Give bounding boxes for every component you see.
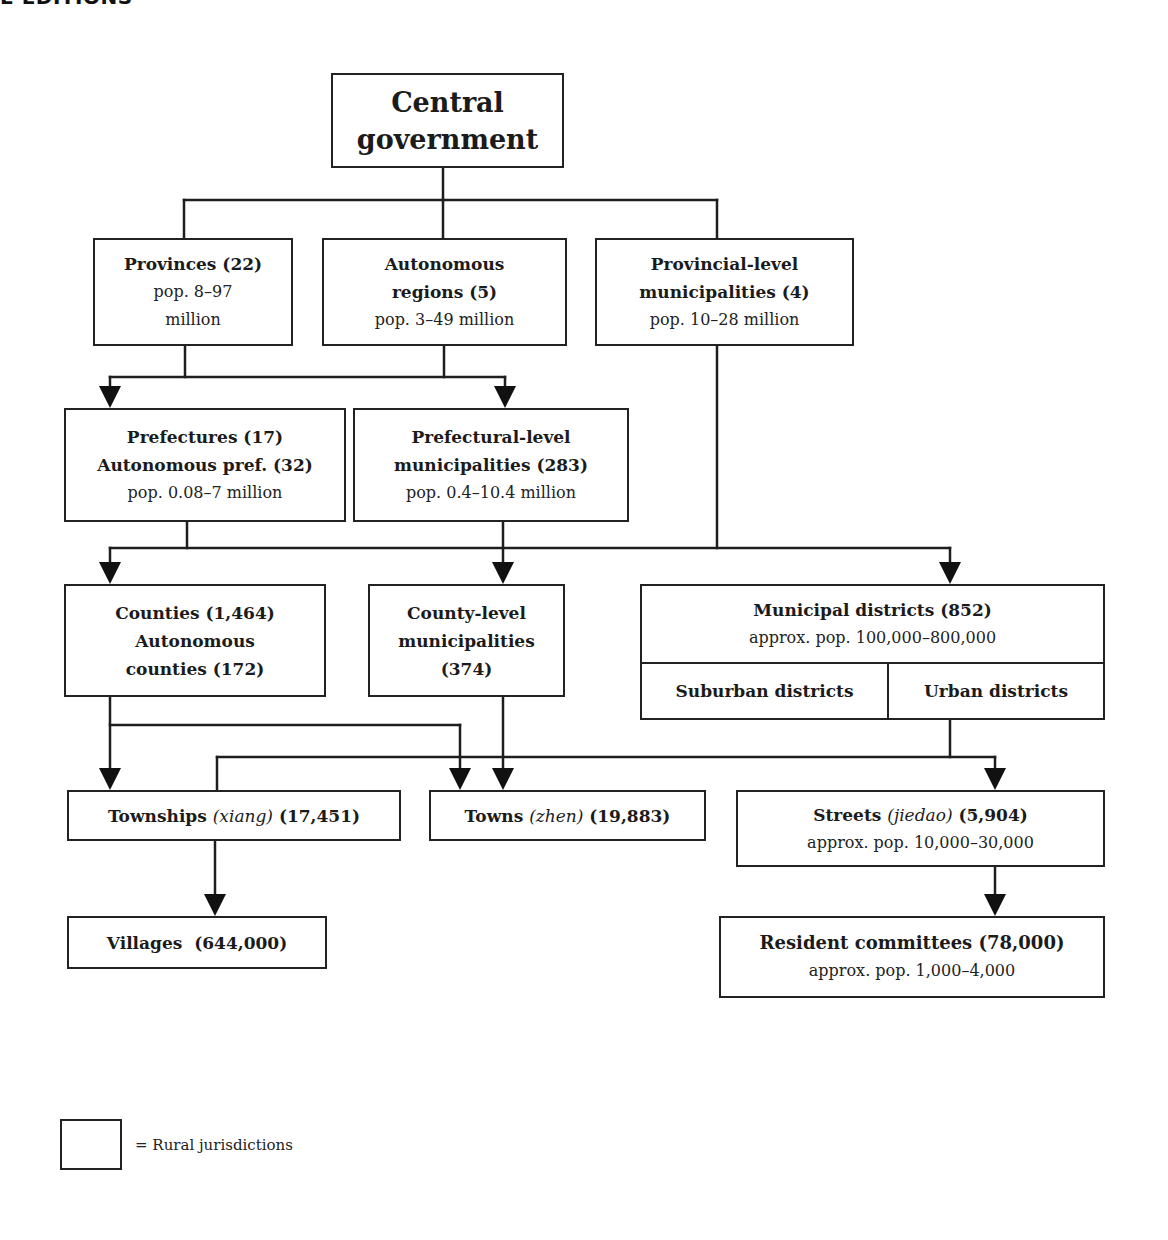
node-population: pop. 0.08–7 million [128, 479, 283, 507]
node-title-line: Autonomous pref. (32) [97, 451, 313, 479]
node-title-line: Prefectural-level [411, 423, 570, 451]
node-central-government: Central government [331, 73, 564, 168]
node-count: (644,000) [194, 933, 287, 953]
node-streets: Streets (jiedao) (5,904) approx. pop. 10… [736, 790, 1105, 867]
node-title-line: Autonomous [135, 627, 255, 655]
node-count: (5,904) [958, 805, 1027, 825]
node-counties: Counties (1,464) Autonomous counties (17… [64, 584, 326, 697]
node-title-line: (374) [441, 655, 493, 683]
node-title: Provinces (22) [124, 250, 262, 278]
node-autonomous-regions: Autonomous regions (5) pop. 3–49 million [322, 238, 567, 346]
node-villages: Villages (644,000) [67, 916, 327, 969]
node-title: Villages (644,000) [107, 929, 287, 957]
node-count: (19,883) [589, 806, 670, 826]
node-name: Villages [107, 933, 183, 953]
node-population: pop. 0.4–10.4 million [406, 479, 576, 507]
node-county-level-municipalities: County-level municipalities (374) [368, 584, 565, 697]
node-resident-committees: Resident committees (78,000) approx. pop… [719, 916, 1105, 998]
node-townships: Townships (xiang) (17,451) [67, 790, 401, 841]
node-title-line: government [357, 121, 538, 158]
node-population: pop. 10–28 million [650, 306, 800, 334]
node-provinces: Provinces (22) pop. 8–97 million [93, 238, 293, 346]
urban-districts-label: Urban districts [924, 677, 1068, 705]
node-population: approx. pop. 1,000–4,000 [809, 957, 1015, 985]
suburban-districts-cell: Suburban districts [642, 664, 889, 718]
node-municipal-districts: Municipal districts (852) approx. pop. 1… [640, 584, 1105, 720]
node-title-line: municipalities (283) [394, 451, 588, 479]
suburban-districts-label: Suburban districts [676, 677, 854, 705]
node-name: Townships [108, 806, 207, 826]
node-name: Streets [813, 805, 881, 825]
node-title-line: Counties (1,464) [115, 599, 275, 627]
node-population: approx. pop. 10,000–30,000 [807, 829, 1034, 857]
node-population: pop. 8–97 [154, 278, 233, 306]
node-count: (17,451) [279, 806, 360, 826]
node-title: Towns (zhen) (19,883) [465, 802, 671, 830]
node-title-line: regions (5) [392, 278, 497, 306]
urban-districts-cell: Urban districts [889, 664, 1103, 718]
node-local-term: (zhen) [529, 806, 583, 826]
node-population: pop. 3–49 million [375, 306, 515, 334]
legend-label: = Rural jurisdictions [135, 1134, 293, 1156]
node-title-line: Provincial-level [651, 250, 799, 278]
node-prefectural-level-municipalities: Prefectural-level municipalities (283) p… [353, 408, 629, 522]
legend-swatch [60, 1119, 122, 1170]
node-title: Resident committees (78,000) [760, 929, 1065, 957]
node-title: Municipal districts (852) [753, 596, 992, 624]
node-title-line: counties (172) [126, 655, 265, 683]
node-title-line: Autonomous [385, 250, 505, 278]
node-title: Townships (xiang) (17,451) [108, 802, 360, 830]
node-title-line: County-level [407, 599, 526, 627]
node-towns: Towns (zhen) (19,883) [429, 790, 706, 841]
node-prefectures: Prefectures (17) Autonomous pref. (32) p… [64, 408, 346, 522]
node-title: Streets (jiedao) (5,904) [813, 801, 1028, 829]
node-provincial-level-municipalities: Provincial-level municipalities (4) pop.… [595, 238, 854, 346]
node-name: Towns [465, 806, 524, 826]
node-title-line: municipalities (4) [639, 278, 809, 306]
node-title-line: Prefectures (17) [127, 423, 283, 451]
node-title-line: municipalities [398, 627, 535, 655]
node-population: million [165, 306, 221, 334]
node-local-term: (jiedao) [887, 805, 952, 825]
node-title-line: Central [391, 84, 504, 121]
node-local-term: (xiang) [213, 806, 273, 826]
node-population: approx. pop. 100,000–800,000 [749, 624, 996, 652]
municipal-districts-header: Municipal districts (852) approx. pop. 1… [642, 586, 1103, 662]
municipal-districts-subdivisions: Suburban districts Urban districts [642, 662, 1103, 718]
